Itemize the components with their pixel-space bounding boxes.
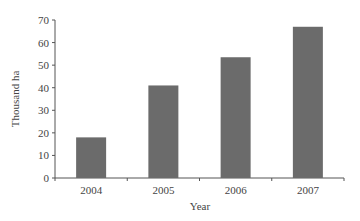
x-tick-label: 2007	[297, 184, 320, 196]
y-tick-label: 70	[38, 14, 50, 26]
y-axis-title: Thousand ha	[9, 71, 21, 128]
y-tick-label: 50	[38, 59, 50, 71]
bar-2006	[221, 57, 251, 178]
x-tick-label: 2006	[225, 184, 248, 196]
y-tick-label: 0	[44, 172, 50, 184]
bar-2007	[293, 27, 323, 178]
bar-chart: 010203040506070 2004200520062007 Thousan…	[0, 0, 360, 221]
bars	[76, 27, 323, 178]
x-axis: 2004200520062007	[55, 178, 344, 196]
x-tick-label: 2005	[152, 184, 175, 196]
y-tick-label: 30	[38, 104, 50, 116]
y-axis: 010203040506070	[38, 14, 55, 184]
bar-2004	[76, 137, 106, 178]
x-tick-label: 2004	[80, 184, 103, 196]
bar-2005	[148, 85, 178, 178]
y-tick-label: 20	[38, 127, 50, 139]
y-tick-label: 40	[38, 82, 50, 94]
y-tick-label: 60	[38, 37, 50, 49]
y-tick-label: 10	[38, 149, 50, 161]
x-axis-title: Year	[190, 200, 211, 212]
